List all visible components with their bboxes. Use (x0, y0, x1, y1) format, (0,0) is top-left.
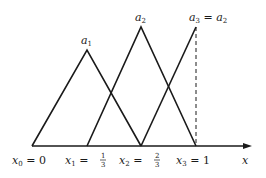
tick-label-x3: x3 = 1 (176, 154, 210, 168)
svg-text:1: 1 (101, 152, 105, 160)
tick-label-x1: x1 = 1 3 (65, 152, 106, 169)
svg-text:2: 2 (155, 152, 159, 160)
axis-arrow-icon (243, 143, 252, 149)
peak-label-a1: a1 (81, 34, 92, 48)
hat-function-2 (87, 27, 196, 146)
peak-label-a2: a2 (135, 11, 146, 25)
axis-label-x: x (242, 154, 249, 167)
tick-label-x2: x2 = 2 3 (119, 152, 160, 169)
svg-text:x2 =: x2 = (119, 154, 142, 168)
hat-functions-diagram: a1 a2 a3 = a2 x0 = 0 x1 = 1 3 x2 = 2 3 x… (0, 0, 266, 178)
tick-label-x0: x0 = 0 (12, 154, 46, 168)
peak-label-a3: a3 = a2 (189, 11, 227, 25)
svg-text:3: 3 (101, 161, 105, 169)
svg-text:x1 =: x1 = (65, 154, 88, 168)
svg-text:3: 3 (155, 161, 159, 169)
